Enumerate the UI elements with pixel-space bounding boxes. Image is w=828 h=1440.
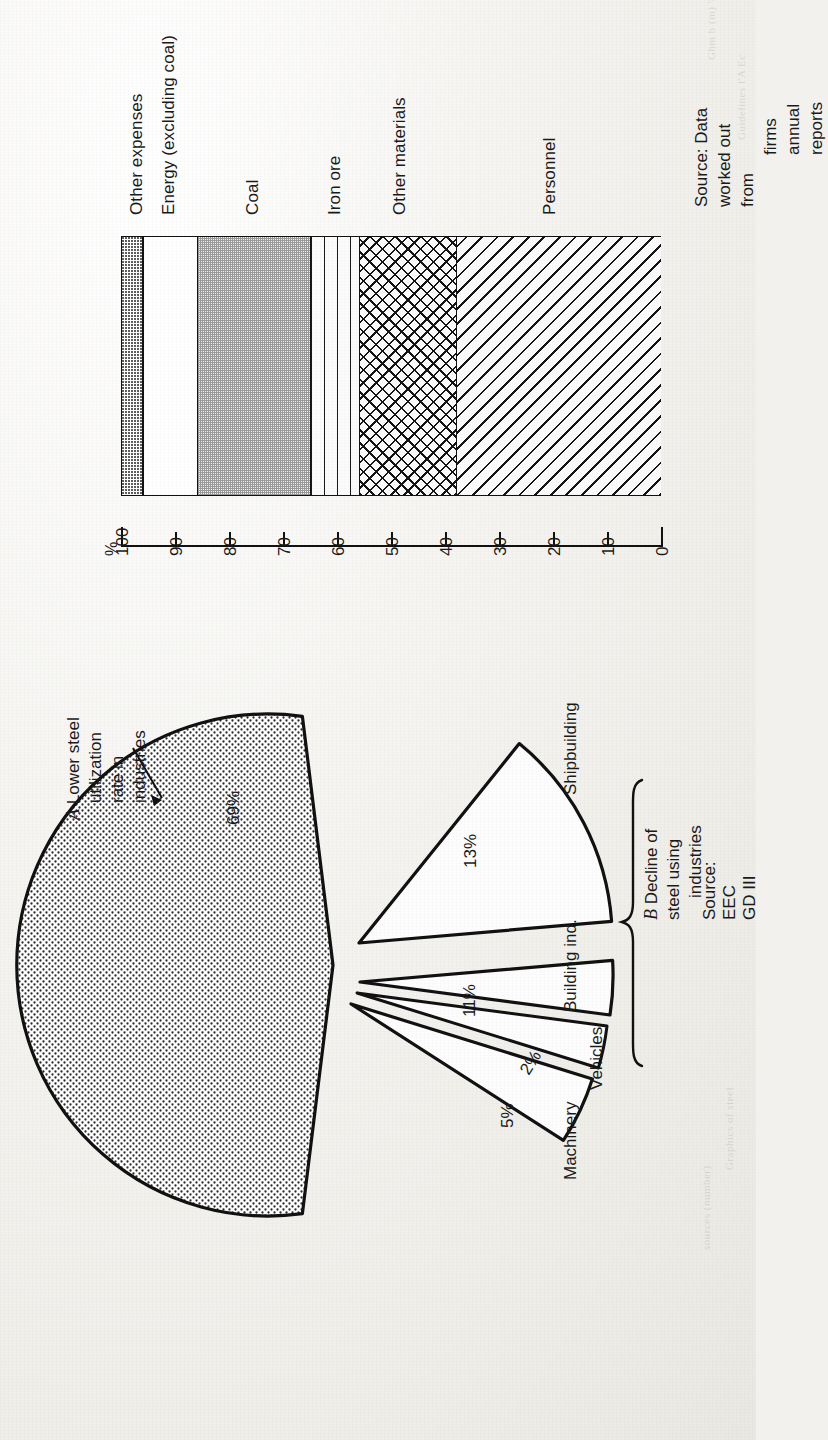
annotation-line-2: utilization: [85, 717, 107, 803]
pie-label-shipbuilding: Shipbuilding: [560, 702, 581, 795]
annotation-letter-A: A: [63, 809, 83, 820]
pie-value-lower-utilization: 69%: [224, 791, 244, 825]
bar-tick-label: 80: [221, 537, 241, 556]
pie-caption-B: B Decline of steel using industries: [640, 804, 707, 920]
bar-tick-label: 90: [167, 537, 187, 556]
bar-label-energy: Energy (excluding coal): [159, 35, 179, 215]
annotation-line-1: Lower steel: [64, 717, 83, 804]
bar-tick-label: 10: [599, 537, 619, 556]
bar-segment-coal: [197, 236, 310, 496]
bar-tick-label: 60: [329, 537, 349, 556]
bar-tick-label: 0: [653, 547, 673, 556]
bar-segment-energy: [143, 236, 197, 496]
bar-source-line-1: Source: Data worked out from: [692, 108, 757, 207]
bar-tick-label: 20: [545, 537, 565, 556]
bar-tick-label: 70: [275, 537, 295, 556]
caption-letter-B: B: [641, 909, 661, 920]
pie-label-machinery: Machinery: [560, 1102, 581, 1180]
bar-tick-label: 50: [383, 537, 403, 556]
cost-structure-bar-chart: Other expenses Energy (excluding coal) C…: [0, 0, 756, 620]
bar-axis-end-cap: [661, 527, 663, 547]
bar-segment-personnel: [456, 236, 661, 496]
pie-label-vehicles: Vehicles: [586, 1027, 607, 1090]
slice-group-brace: [622, 780, 642, 1066]
bar-label-iron-ore: Iron ore: [325, 156, 345, 215]
bar-label-coal: Coal: [243, 180, 263, 215]
pie-value-shipbuilding: 13%: [461, 834, 481, 868]
bar-segment-other-expenses: [121, 236, 143, 496]
bar-label-other-expenses: Other expenses: [127, 94, 147, 215]
bar-tick-label: 30: [491, 537, 511, 556]
bar-source-line-2: firms annual reports: [759, 102, 828, 155]
bar-tick-label: 100: [113, 528, 133, 556]
pie-value-machinery: 5%: [498, 1103, 518, 1128]
bar-tick-label: 40: [437, 537, 457, 556]
pie-label-building-ind: Building ind.: [560, 919, 581, 1012]
annotation-line-4: industries: [129, 717, 151, 803]
steel-using-industries-pie-chart: 69% 13% 11% 2% 5% Shipbuilding Building …: [0, 620, 756, 1440]
bar-segment-iron-ore: [310, 236, 359, 496]
bar-label-other-materials: Other materials: [390, 97, 410, 215]
annotation-line-3: rate in: [107, 717, 129, 803]
pie-chart-source: Source: EEC GD III: [700, 861, 760, 920]
bar-segment-other-materials: [359, 236, 456, 496]
pie-value-building-ind: 11%: [460, 984, 480, 1017]
bar-chart-source: Source: Data worked out from firms annua…: [690, 102, 828, 207]
caption-line-1: Decline of steel using: [642, 829, 683, 920]
bar-label-personnel: Personnel: [540, 138, 560, 215]
annotation-lower-utilization: A Lower steel utilization rate in indust…: [62, 717, 151, 820]
